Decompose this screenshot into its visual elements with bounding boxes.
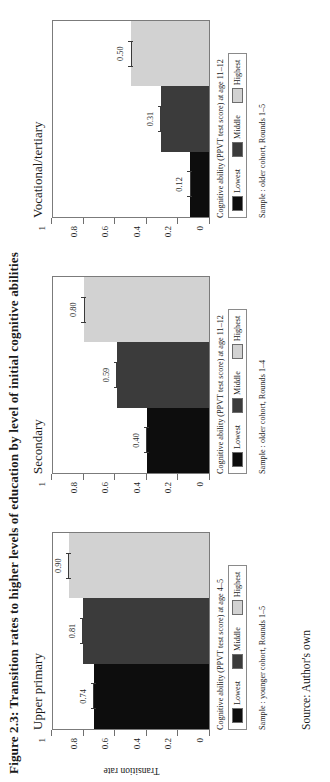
bar-highest[interactable]: 0.90 xyxy=(69,533,209,598)
legend-label: Highest xyxy=(233,572,242,597)
value-whisker xyxy=(144,427,149,453)
y-tick-label: 0.2 xyxy=(163,226,173,237)
value-whisker xyxy=(81,297,86,323)
bars-group: 0.40 0.59 0.80 xyxy=(53,277,209,473)
bar-middle[interactable]: 0.81 xyxy=(83,598,209,663)
y-tick-label: 0.6 xyxy=(100,738,110,749)
legend-label: Middle xyxy=(233,627,242,651)
panels-row: Upper primary Transition rate 0 0.2 0.4 … xyxy=(30,6,298,776)
value-whisker xyxy=(66,553,71,579)
bars-group: 0.12 0.31 0.50 xyxy=(53,21,209,217)
y-tick-label: 0 xyxy=(195,738,205,743)
y-tick-label: 0.2 xyxy=(163,738,173,749)
y-tick-label: 1 xyxy=(37,226,47,231)
sample-note: Sample : older cohort, Rounds 1–5 xyxy=(258,104,267,218)
y-tick-label: 1 xyxy=(37,738,47,743)
legend-item-lowest[interactable]: Lowest xyxy=(232,169,243,211)
legend-swatch-icon xyxy=(232,600,243,615)
legend-item-middle[interactable]: Middle xyxy=(232,371,243,413)
bar-value-label: 0.50 xyxy=(116,46,125,61)
y-tick-label: 0.2 xyxy=(163,482,173,493)
bar-middle[interactable]: 0.59 xyxy=(117,342,209,407)
bar-middle[interactable]: 0.31 xyxy=(161,86,209,151)
y-tick-label: 0.4 xyxy=(132,738,142,749)
y-axis-ticks: 0 0.2 0.4 0.6 0.8 1 xyxy=(52,218,210,230)
panel-upper-primary: Upper primary Transition rate 0 0.2 0.4 … xyxy=(30,520,298,776)
y-tick-label: 0.8 xyxy=(69,226,79,237)
legend: Lowest Middle Highest xyxy=(228,565,247,730)
y-tick-label: 0.8 xyxy=(69,482,79,493)
rotated-figure-wrapper: Figure 2.3: Transition rates to higher l… xyxy=(0,0,330,782)
legend-label: Lowest xyxy=(233,681,242,705)
y-axis-ticks: 0 0.2 0.4 0.6 0.8 1 xyxy=(52,474,210,486)
bar-highest[interactable]: 0.80 xyxy=(84,277,209,342)
y-axis-ticks: 0 0.2 0.4 0.6 0.8 1 xyxy=(52,730,210,742)
y-axis-title: Transition rate xyxy=(52,764,210,778)
legend-caption: Cognitive ability (PPVT test score) at a… xyxy=(216,59,225,218)
plot-area: 0.12 0.31 0.50 xyxy=(52,20,210,218)
bar-lowest[interactable]: 0.12 xyxy=(190,152,209,217)
y-tick-label: 0.4 xyxy=(132,226,142,237)
legend-item-highest[interactable]: Highest xyxy=(232,316,243,359)
sample-note: Sample : younger cohort, Rounds 1–5 xyxy=(258,606,267,730)
value-whisker xyxy=(187,171,192,197)
bar-value-label: 0.74 xyxy=(79,689,88,704)
value-whisker xyxy=(158,106,163,132)
panel-secondary: Secondary 0 0.2 0.4 0.6 0.8 1 xyxy=(30,264,298,520)
legend-swatch-icon xyxy=(232,344,243,359)
value-whisker xyxy=(91,683,96,709)
legend-label: Lowest xyxy=(233,425,242,449)
legend-swatch-icon xyxy=(232,708,243,723)
legend-swatch-icon xyxy=(232,196,243,211)
y-tick-label: 1 xyxy=(37,482,47,487)
legend-label: Middle xyxy=(233,115,242,139)
legend: Lowest Middle Highest xyxy=(228,309,247,474)
legend-swatch-icon xyxy=(232,142,243,157)
panel-title: Vocational/tertiary xyxy=(30,121,46,218)
bar-lowest[interactable]: 0.40 xyxy=(147,408,209,473)
value-whisker xyxy=(80,618,85,644)
legend-caption: Cognitive ability (PPVT test score) at a… xyxy=(216,579,225,730)
bar-value-label: 0.90 xyxy=(54,558,63,573)
bar-value-label: 0.80 xyxy=(69,302,78,317)
value-whisker xyxy=(114,362,119,388)
legend-item-middle[interactable]: Middle xyxy=(232,627,243,669)
plot-area: 0.40 0.59 0.80 xyxy=(52,276,210,474)
bar-value-label: 0.12 xyxy=(175,177,184,192)
legend-label: Highest xyxy=(233,60,242,85)
legend-swatch-icon xyxy=(232,452,243,467)
bars-group: 0.74 0.81 0.90 xyxy=(53,533,209,729)
bar-lowest[interactable]: 0.74 xyxy=(94,664,209,729)
bar-value-label: 0.59 xyxy=(102,368,111,383)
legend-swatch-icon xyxy=(232,88,243,103)
y-tick-label: 0 xyxy=(195,482,205,487)
legend: Lowest Middle Highest xyxy=(228,53,247,218)
legend-caption: Cognitive ability (PPVT test score) at a… xyxy=(216,315,225,474)
value-whisker xyxy=(128,41,133,67)
y-tick-label: 0.6 xyxy=(100,226,110,237)
figure-title: Figure 2.3: Transition rates to higher l… xyxy=(6,252,22,774)
panel-title: Secondary xyxy=(30,419,46,474)
legend-label: Middle xyxy=(233,371,242,395)
legend-swatch-icon xyxy=(232,654,243,669)
bar-value-label: 0.31 xyxy=(146,112,155,127)
y-tick-label: 0.8 xyxy=(69,738,79,749)
y-tick-label: 0.4 xyxy=(132,482,142,493)
plot-area: 0.74 0.81 0.90 xyxy=(52,532,210,730)
legend-item-lowest[interactable]: Lowest xyxy=(232,681,243,723)
figure-container: Figure 2.3: Transition rates to higher l… xyxy=(0,0,330,782)
legend-item-lowest[interactable]: Lowest xyxy=(232,425,243,467)
source-note: Source: Author's own xyxy=(300,630,313,730)
sample-note: Sample : older cohort, Rounds 1–4 xyxy=(258,360,267,474)
y-axis-title-text: Transition rate xyxy=(103,766,159,777)
legend-label: Highest xyxy=(233,316,242,341)
legend-item-highest[interactable]: Highest xyxy=(232,60,243,103)
legend-item-middle[interactable]: Middle xyxy=(232,115,243,157)
legend-item-highest[interactable]: Highest xyxy=(232,572,243,615)
legend-swatch-icon xyxy=(232,398,243,413)
bar-value-label: 0.40 xyxy=(132,433,141,448)
panel-title: Upper primary xyxy=(30,653,46,730)
bar-highest[interactable]: 0.50 xyxy=(131,21,209,86)
bar-value-label: 0.81 xyxy=(68,624,77,639)
panel-vocational-tertiary: Vocational/tertiary 0 0.2 0.4 0.6 0.8 1 xyxy=(30,8,298,264)
